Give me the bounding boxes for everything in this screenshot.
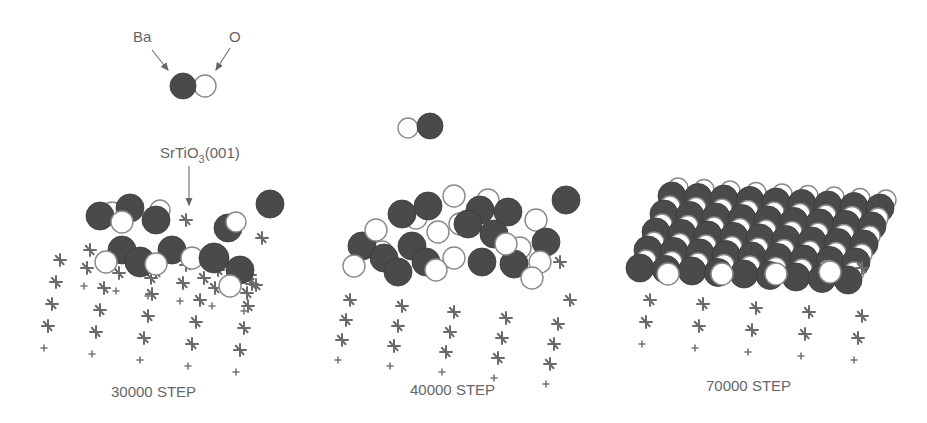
o-label: O [229, 28, 241, 45]
o-atom [95, 251, 117, 273]
substrate-deep-atom [639, 341, 645, 347]
substrate-atom [90, 326, 102, 338]
ba-atom [86, 202, 114, 230]
incoming-ba-atom [417, 113, 443, 139]
substrate-atom [444, 326, 456, 338]
substrate-atom [238, 322, 250, 334]
incoming-bao-molecule [398, 113, 443, 139]
o-atom [521, 267, 543, 289]
substrate-atom [640, 316, 652, 328]
ba-atom [730, 260, 758, 288]
substrate-label-suffix: (001) [205, 144, 240, 161]
substrate-atom [396, 300, 408, 312]
substrate-atom [180, 214, 192, 226]
substrate-deep-atom [851, 357, 857, 363]
caption-70000-step: 70000 STEP [706, 377, 791, 394]
substrate-atom [500, 312, 512, 324]
o-atom [525, 209, 547, 231]
substrate-atom [544, 358, 556, 370]
substrate-atom [256, 232, 268, 244]
ba-atom [199, 243, 229, 273]
ba-atom [626, 254, 654, 282]
ba-atom [414, 192, 442, 220]
incoming-o-atom [398, 118, 418, 138]
legend-o-atom [194, 75, 216, 97]
substrate-deep-atom [89, 351, 95, 357]
o-arrow [216, 48, 230, 70]
o-atom [226, 212, 246, 232]
panel-30000-step [41, 194, 268, 375]
substrate-deep-atom [335, 357, 341, 363]
substrate-deep-atom [439, 369, 445, 375]
substrate-atom [644, 294, 656, 306]
substrate-atom [234, 344, 246, 356]
caption-30000-step: 30000 STEP [111, 383, 196, 400]
substrate-deep-atom [81, 283, 87, 289]
o-atom [495, 233, 517, 255]
svg-text:SrTiO3(001): SrTiO3(001) [160, 144, 240, 165]
substrate-atom [799, 328, 811, 340]
substrate-atom [440, 346, 452, 358]
substrate-atom [198, 272, 210, 284]
caption-40000-step: 40000 STEP [410, 381, 495, 398]
substrate-atom [54, 254, 66, 266]
substrate-atom [138, 332, 150, 344]
ba-atom [468, 248, 496, 276]
substrate-label-main: SrTiO [160, 144, 199, 161]
substrate-label: SrTiO3(001) [160, 144, 240, 205]
ba-atom [142, 206, 170, 234]
substrate-atom [388, 340, 400, 352]
substrate-atom [746, 324, 758, 336]
panel-40000-step [335, 185, 580, 387]
panel-70000-step [626, 178, 896, 363]
substrate-deep-atom [209, 303, 215, 309]
substrate-atom [81, 262, 93, 274]
o-atom [219, 275, 241, 297]
substrate-atom [344, 294, 356, 306]
substrate-deep-atom [692, 345, 698, 351]
o-atom [443, 185, 465, 207]
substrate-deep-atom [543, 381, 549, 387]
o-atom [711, 263, 733, 285]
incoming-ba-atom-panel1 [256, 190, 284, 218]
substrate-deep-atom [113, 288, 119, 294]
substrate-atom [697, 298, 709, 310]
substrate-atom [496, 332, 508, 344]
ba-atom [678, 257, 706, 285]
substrate-atom [554, 256, 566, 268]
substrate-atom [564, 294, 576, 306]
substrate-atom [492, 352, 504, 364]
ba-atom [552, 186, 580, 214]
substrate-atom [194, 294, 206, 306]
substrate-atom [186, 338, 198, 350]
substrate-atom [177, 277, 189, 289]
legend-ba-atom [170, 73, 196, 99]
o-atom [365, 219, 387, 241]
substrate-atom [142, 310, 154, 322]
substrate-atom [336, 334, 348, 346]
ba-atom [454, 210, 482, 238]
substrate-atom [448, 306, 460, 318]
simulation-figure: Ba O SrTiO3(001) 30000 STEP 40000 STEP 7… [0, 0, 927, 423]
o-atom [819, 261, 841, 283]
substrate-atom [84, 244, 96, 256]
substrate-atom [42, 320, 54, 332]
substrate-atom [750, 302, 762, 314]
substrate-atom [693, 320, 705, 332]
o-atom [425, 259, 447, 281]
substrate-deep-atom [177, 298, 183, 304]
substrate-atom [340, 314, 352, 326]
o-atom [343, 255, 365, 277]
substrate-deep-atom [233, 369, 239, 375]
substrate-atom [552, 318, 564, 330]
o-atom [765, 263, 787, 285]
substrate-deep-atom [798, 353, 804, 359]
ba-arrow [152, 50, 168, 70]
substrate-atom [50, 276, 62, 288]
substrate-deep-atom [41, 345, 47, 351]
o-atom [657, 263, 679, 285]
substrate-atom [856, 310, 868, 322]
legend: Ba O [133, 28, 241, 99]
substrate-atom [392, 320, 404, 332]
substrate-atom [803, 306, 815, 318]
